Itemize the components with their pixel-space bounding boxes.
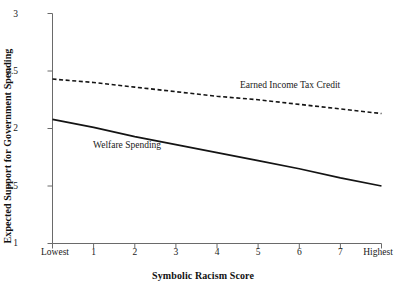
series-annotation-earned-income-tax-credit: Earned Income Tax Credit [240, 80, 340, 90]
x-axis-title: Symbolic Racism Score [0, 270, 406, 281]
x-tick-label-6: 6 [297, 247, 302, 257]
y-axis-title: Expected Support for Government Spending [0, 0, 16, 292]
x-tick-label-4: 4 [215, 247, 220, 257]
x-tick-label-7: 7 [338, 247, 343, 257]
y-axis-ticks [48, 14, 53, 244]
x-tick-label-5: 5 [256, 247, 261, 257]
x-tick-label-3: 3 [174, 247, 179, 257]
chart-figure: 3 2.5 2 1.5 1 Lowest 1 2 3 4 5 6 7 Highe… [0, 0, 406, 292]
x-tick-label-2: 2 [132, 247, 137, 257]
x-tick-label-1: 1 [91, 247, 96, 257]
x-tick-label-lowest: Lowest [41, 247, 69, 257]
series-annotation-welfare-spending: Welfare Spending [93, 140, 161, 150]
x-tick-label-highest: Highest [363, 247, 393, 257]
series-line-welfare-spending [53, 119, 382, 186]
